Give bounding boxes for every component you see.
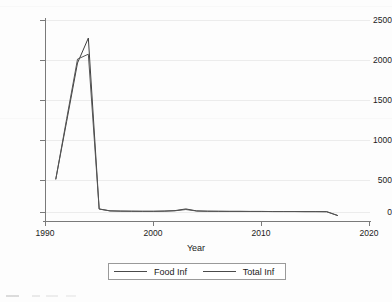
series-line-total-inf [56, 54, 338, 215]
legend-line-icon-food-inf [114, 271, 147, 272]
legend-entry-total-inf[interactable]: Total Inf [198, 267, 285, 277]
x-axis-title: Year [0, 243, 392, 253]
figure-canvas: 2500 2000 1500 1000 500 0 1990 2000 2010… [0, 0, 392, 302]
legend-label-food-inf: Food Inf [154, 267, 187, 277]
legend-label-total-inf: Total Inf [243, 267, 275, 277]
chart-legend[interactable]: Food Inf Total Inf [108, 263, 286, 280]
data-series-layer [0, 0, 392, 302]
legend-line-icon-total-inf [203, 271, 236, 272]
legend-entry-food-inf[interactable]: Food Inf [109, 267, 198, 277]
cropped-caption-remnant [6, 291, 156, 299]
